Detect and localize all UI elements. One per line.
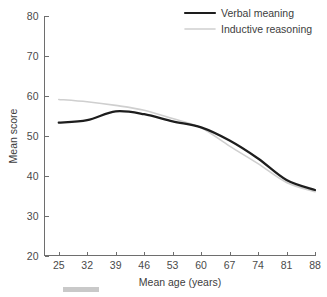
legend-label-verbal-meaning: Verbal meaning — [221, 7, 294, 19]
y-tick-label: 80 — [27, 10, 39, 22]
x-tick-label: 81 — [281, 259, 293, 271]
x-tick-label: 60 — [195, 259, 207, 271]
data-series-layer — [59, 99, 315, 191]
series-line-verbal-meaning — [59, 111, 315, 190]
chart-legend: Verbal meaning Inductive reasoning — [185, 7, 312, 35]
y-tick-label: 60 — [27, 90, 39, 102]
x-axis-title: Mean age (years) — [139, 276, 221, 288]
y-tick-label: 50 — [27, 130, 39, 142]
y-tick-label: 70 — [27, 50, 39, 62]
series-line-inductive-reasoning — [59, 99, 315, 191]
x-tick-label: 53 — [167, 259, 179, 271]
x-tick-label: 32 — [81, 259, 93, 271]
x-tick-label: 39 — [110, 259, 122, 271]
x-tick-label: 25 — [53, 259, 65, 271]
x-tick-label: 88 — [309, 259, 321, 271]
axis-lines — [45, 16, 316, 256]
caption-bar — [63, 287, 99, 292]
y-axis-ticks: 20304050607080 — [27, 10, 49, 262]
y-tick-label: 20 — [27, 250, 39, 262]
y-tick-label: 30 — [27, 210, 39, 222]
x-tick-label: 46 — [138, 259, 150, 271]
line-chart: 20304050607080 25323946536067748188 Mean… — [0, 0, 327, 297]
y-axis-title: Mean score — [7, 108, 19, 163]
y-tick-label: 40 — [27, 170, 39, 182]
x-axis-ticks: 25323946536067748188 — [53, 252, 321, 271]
x-tick-label: 67 — [224, 259, 236, 271]
legend-label-inductive-reasoning: Inductive reasoning — [221, 23, 312, 35]
x-tick-label: 74 — [252, 259, 264, 271]
chart-figure: 20304050607080 25323946536067748188 Mean… — [0, 0, 327, 297]
